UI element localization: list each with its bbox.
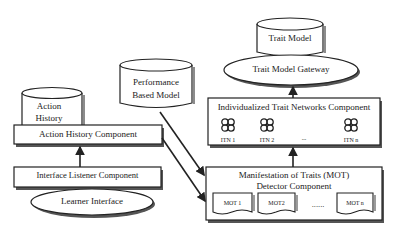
performance-model-label-line1: Performance: [120, 77, 192, 87]
mot-component-label-line1: Manifestation of Traits (MOT): [206, 170, 382, 180]
itn-n-label: ITN n: [337, 137, 365, 144]
itn-ellipsis-label: ...: [294, 135, 314, 142]
action-history-component-label: Action History Component: [14, 129, 162, 139]
mot-2-label: MOT2: [258, 200, 295, 207]
action-history-label-line1: Action: [22, 101, 76, 111]
interface-listener-component-label: Interface Listener Component: [14, 171, 161, 181]
mot-n-label: MOT n: [337, 200, 373, 207]
action-history-label-line2: History: [22, 113, 76, 123]
itn-2-label: ITN 2: [253, 137, 281, 144]
trait-model-gateway-label: Trait Model Gateway: [224, 64, 358, 74]
learner-interface-label: Learner Interface: [31, 196, 153, 206]
mot-1-label: MOT 1: [213, 200, 252, 207]
performance-model-label-line2: Based Model: [120, 90, 192, 100]
itn-1-label: ITN 1: [214, 137, 242, 144]
edge-action-history-to-mot: [162, 138, 205, 201]
mot-ellipsis-label: ......: [303, 200, 333, 210]
mot-component-label-line2: Detector Component: [206, 181, 382, 191]
itn-component-label: Individualized Trait Networks Component: [208, 102, 380, 112]
trait-model-label: Trait Model: [257, 33, 323, 43]
